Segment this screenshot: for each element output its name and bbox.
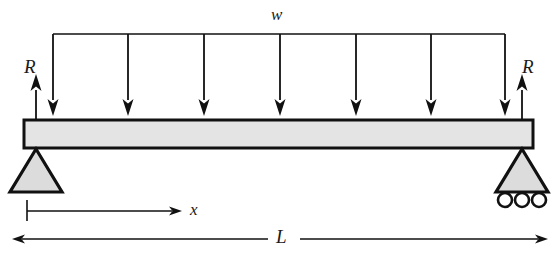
load-arrow — [426, 34, 437, 116]
roller-circle — [498, 193, 512, 207]
load-arrow — [351, 34, 362, 116]
dimension-label-x: x — [190, 201, 198, 218]
beam-diagram: w R R x L — [0, 0, 559, 258]
distributed-load-group — [48, 34, 511, 116]
load-arrow — [48, 34, 59, 116]
roller-circle — [532, 193, 546, 207]
load-arrow — [500, 34, 511, 116]
beam-member — [24, 120, 533, 148]
roller-circle — [515, 193, 529, 207]
load-label-w: w — [271, 6, 282, 23]
reaction-label-right: R — [522, 57, 534, 76]
load-arrow — [199, 34, 210, 116]
load-arrow — [123, 34, 134, 116]
load-arrow — [275, 34, 286, 116]
pin-support-left — [10, 149, 62, 192]
roller-support-right — [496, 149, 548, 207]
dimension-label-L: L — [276, 227, 287, 246]
dimension-x — [27, 200, 182, 221]
reaction-label-left: R — [24, 57, 36, 76]
beam-diagram-canvas — [0, 0, 559, 258]
